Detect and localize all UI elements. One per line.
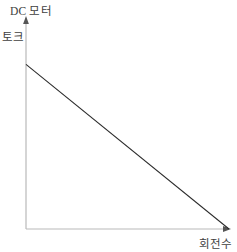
chart-figure: DC 모터 토크 회전수 [0,0,237,252]
chart-title: DC 모터 [10,2,52,18]
y-axis-label: 토크 [2,28,24,44]
chart-plot-area [0,0,237,252]
x-axis-label: 회전수 [199,235,233,251]
torque-speed-curve [26,64,229,229]
